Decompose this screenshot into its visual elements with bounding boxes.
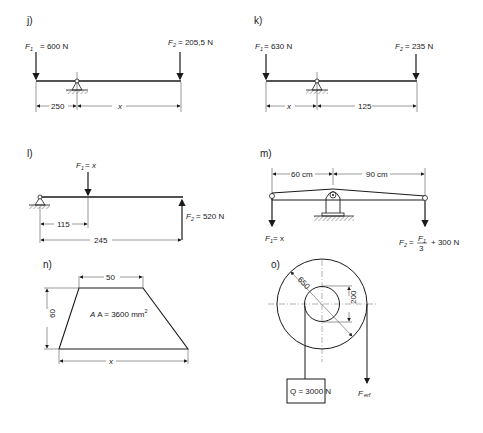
l-f1-value: = x — [85, 161, 97, 170]
l-f2-symbol: F2 — [186, 212, 194, 222]
k-f1-symbol: F1 — [255, 42, 263, 52]
m-dim-right: 90 cm — [366, 170, 388, 179]
problem-l-label: l) — [27, 148, 33, 159]
o-inner-dim: 200 — [349, 290, 358, 304]
problem-j-label: j) — [26, 15, 33, 26]
m-f2-eq: = — [409, 238, 414, 247]
m-f1-symbol: F1 — [265, 234, 273, 244]
j-dim-left: 250 — [51, 102, 65, 111]
o-load-label: Q = 3000 N — [290, 387, 331, 396]
k-f2-value: = 235 N — [405, 42, 433, 51]
j-f2-symbol: F2 — [168, 38, 176, 48]
problem-n-label: n) — [43, 259, 52, 270]
j-dim-right: x — [117, 102, 123, 111]
j-f1-symbol: F1 — [25, 42, 33, 52]
m-f2-suffix: + 300 N — [431, 238, 459, 247]
j-f1-value: = 600 N — [40, 42, 68, 51]
l-f2-value: = 520 N — [196, 212, 224, 221]
k-f2-symbol: F2 — [395, 42, 403, 52]
m-dim-left: 60 cm — [291, 170, 313, 179]
m-f2-frac-num: F1 — [418, 234, 426, 244]
problem-o-label: o) — [271, 259, 280, 270]
l-dim-long: 245 — [94, 236, 108, 245]
problem-k: k) F1 = 630 N F2 = 235 N x 125 — [254, 15, 433, 112]
n-bottom-dim: x — [108, 357, 114, 366]
m-f1-value: = x — [273, 234, 284, 243]
n-top-dim: 50 — [106, 273, 115, 282]
m-lever — [272, 189, 425, 200]
k-dim-left: x — [286, 102, 292, 111]
k-pivot-support-icon — [306, 72, 328, 110]
j-pivot-support-icon — [66, 72, 88, 110]
problem-sheet: j) F1 = 600 N F2 = 205,5 N 250 x k) F1 — [0, 0, 483, 433]
problem-k-label: k) — [254, 15, 262, 26]
problem-o: o) 650 200 Q = 3000 N Ferf — [268, 259, 378, 403]
problem-j: j) F1 = 600 N F2 = 205,5 N 250 x — [25, 15, 213, 112]
o-outer-dim: 650 — [296, 275, 312, 291]
m-pedestal-support-icon — [314, 192, 354, 222]
m-f2-symbol: F2 — [399, 238, 407, 248]
n-height-dim: 60 — [48, 309, 57, 318]
n-area-label: A A = 3600 mm2 — [89, 308, 148, 319]
l-f1-symbol: F1 — [76, 161, 84, 171]
problem-m-label: m) — [260, 148, 272, 159]
problem-l: l) F1 = x F2 = 520 N 115 245 — [27, 148, 224, 245]
j-f2-value: = 205,5 N — [178, 38, 213, 47]
problem-n: n) 50 60 A A = 3600 mm2 x — [43, 259, 188, 366]
o-force-label: Ferf — [358, 389, 371, 398]
k-f1-value: = 630 N — [264, 42, 292, 51]
m-f2-frac-den: 3 — [419, 244, 424, 253]
problem-m: m) 60 cm 90 cm F1 = x F2 = F1 3 — [260, 148, 459, 253]
k-dim-right: 125 — [358, 102, 372, 111]
l-dim-short: 115 — [57, 220, 70, 229]
